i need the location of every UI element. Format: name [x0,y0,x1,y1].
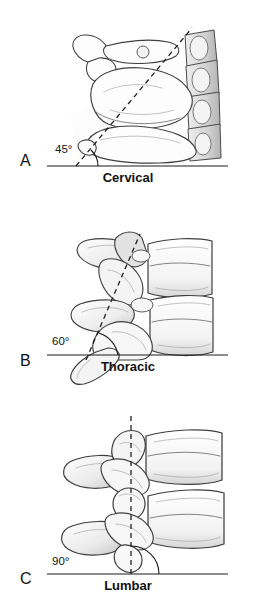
thoracic-upper-body [148,239,212,298]
thoracic-inferior-facet [131,298,153,312]
lumbar-caption: Lumbar [0,578,256,593]
thoracic-lower-body [150,296,213,356]
panel-letter-a: A [20,152,31,170]
cervical-caption: Cervical [0,170,256,185]
lumbar-illustration [0,400,256,607]
lumbar-angle-label: 90° [52,555,69,567]
lumbar-upper-body [146,430,222,485]
panel-lumbar: C 90° Lumbar [0,400,256,607]
thoracic-caption: Thoracic [0,359,256,374]
spinal-facet-orientation-figure: A 45° Cervical [0,0,256,607]
lumbar-lower-body [148,490,224,548]
cervical-angle-label: 45° [55,143,72,155]
panel-cervical: A 45° Cervical [0,0,256,200]
panel-thoracic: B 60° Thoracic [0,200,256,400]
thoracic-lower-vertebra-mass [71,322,153,385]
thoracic-angle-label: 60° [52,335,69,347]
